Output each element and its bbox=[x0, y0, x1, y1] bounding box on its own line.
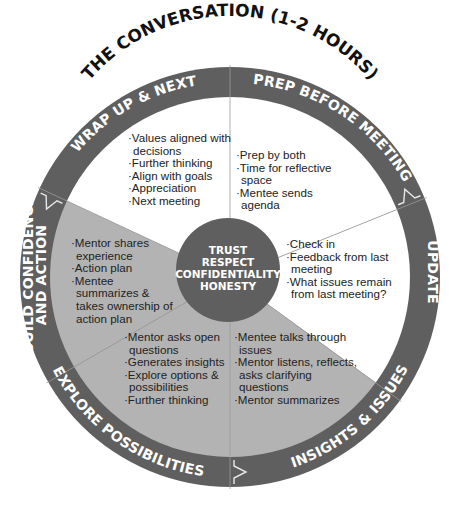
bullet-item: ·Time for reflective space bbox=[236, 162, 351, 187]
bullet-item: ·Generates insights bbox=[124, 356, 236, 369]
stage-bullets-explore: ·Mentor asks open questions·Generates in… bbox=[124, 331, 236, 407]
svg-text:AND ACTION: AND ACTION bbox=[33, 225, 49, 326]
bullet-item: ·What issues remain from last meeting? bbox=[286, 276, 396, 301]
bullet-item: ·Action plan bbox=[71, 262, 179, 275]
bullet-item: ·Check in bbox=[286, 238, 396, 251]
bullet-item: ·Mentor summarizes bbox=[234, 394, 364, 407]
bullet-item: ·Mentor listens, reflects, asks clarifyi… bbox=[234, 356, 364, 394]
center-value-respect: RESPECT bbox=[202, 256, 255, 268]
stage-bullets-insights: ·Mentee talks through issues·Mentor list… bbox=[234, 331, 364, 407]
stage-bullets-update: ·Check in·Feedback from last meeting·Wha… bbox=[286, 238, 396, 301]
bullet-item: ·Explore options & possibilities bbox=[124, 369, 236, 394]
center-value-confidentiality: CONFIDENTIALITY bbox=[175, 268, 281, 280]
stage-label-update: UPDATE bbox=[425, 240, 441, 303]
bullet-item: ·Prep by both bbox=[236, 149, 351, 162]
center-value-trust: TRUST bbox=[209, 244, 248, 256]
stage-bullets-build: ·Mentor shares experience·Action plan·Me… bbox=[71, 237, 179, 325]
bullet-item: ·Feedback from last meeting bbox=[286, 251, 396, 276]
conversation-cycle-diagram: THE CONVERSATION (1-2 HOURS) TRUST RESPE… bbox=[0, 0, 466, 511]
bullet-item: ·Further thinking bbox=[124, 394, 236, 407]
bullet-item: ·Mentee sends agenda bbox=[236, 187, 351, 212]
stage-bullets-prep: ·Prep by both·Time for reflective space·… bbox=[236, 149, 351, 212]
bullet-item: ·Mentor shares experience bbox=[71, 237, 179, 262]
bullet-item: ·Mentee summarizes & takes ownership of … bbox=[71, 275, 179, 325]
bullet-item: ·Mentee talks through issues bbox=[234, 331, 364, 356]
center-value-honesty: HONESTY bbox=[200, 280, 256, 292]
bullet-item: ·Mentor asks open questions bbox=[124, 331, 236, 356]
